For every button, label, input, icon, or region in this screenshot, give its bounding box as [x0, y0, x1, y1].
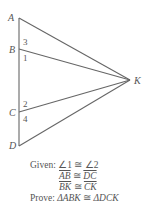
- angle-label-1: 1: [23, 53, 28, 63]
- prove-left: ΔABK: [57, 193, 81, 203]
- given-2-rel: ≅: [73, 171, 81, 181]
- given-1-right: ∠2: [85, 160, 99, 170]
- vertex-label-A: A: [7, 12, 15, 23]
- given-line-2: AB ≅ DC: [59, 171, 97, 182]
- given-1-left: ∠1: [58, 160, 72, 170]
- angle-label-4: 4: [23, 114, 28, 124]
- segment-CK: [19, 80, 130, 112]
- given-line-1: Given: ∠1 ≅ ∠2: [30, 160, 98, 171]
- given-3-right: CK: [84, 182, 97, 192]
- vertex-label-D: D: [8, 140, 17, 151]
- angle-label-2: 2: [23, 99, 28, 109]
- prove-line: Prove: ΔABK ≅ ΔDCK: [30, 193, 119, 204]
- given-2-right: DC: [83, 171, 96, 181]
- angle-label-3: 3: [23, 37, 28, 47]
- vertex-label-C: C: [9, 107, 16, 118]
- segment-AK: [19, 18, 130, 80]
- given-2-left: AB: [59, 171, 71, 181]
- given-3-rel: ≅: [74, 182, 82, 192]
- vertex-label-K: K: [133, 75, 142, 86]
- prove-right: ΔDCK: [93, 193, 118, 203]
- vertex-label-B: B: [9, 44, 15, 55]
- given-label: Given:: [30, 160, 56, 170]
- given-line-3: BK ≅ CK: [59, 182, 97, 193]
- prove-rel: ≅: [83, 193, 91, 203]
- given-3-left: BK: [59, 182, 71, 192]
- given-1-rel: ≅: [74, 160, 82, 170]
- prove-label: Prove:: [30, 193, 55, 203]
- segment-DK: [19, 80, 130, 146]
- segment-BK: [19, 49, 130, 80]
